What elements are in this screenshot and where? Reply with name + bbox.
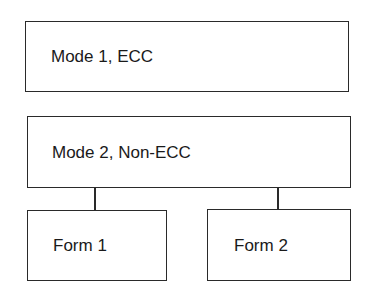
- node-mode-1-ecc: Mode 1, ECC: [25, 21, 349, 92]
- node-label: Form 1: [28, 237, 107, 254]
- node-mode-2-non-ecc: Mode 2, Non-ECC: [27, 116, 351, 188]
- node-form-2: Form 2: [207, 209, 351, 281]
- node-label: Mode 1, ECC: [26, 48, 153, 65]
- node-label: Form 2: [208, 237, 288, 254]
- connector-mode2-form1: [94, 187, 96, 210]
- node-form-1: Form 1: [27, 210, 167, 281]
- connector-mode2-form2: [277, 187, 279, 209]
- node-label: Mode 2, Non-ECC: [28, 144, 191, 161]
